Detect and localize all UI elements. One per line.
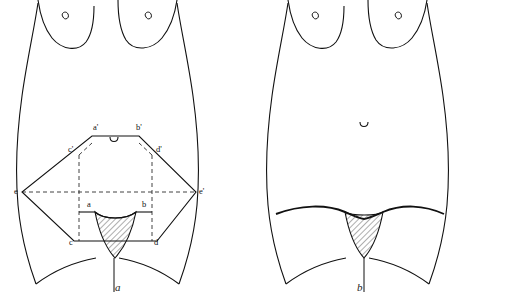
groin-crease-right-a — [119, 258, 179, 284]
torso-flank-right-b — [427, 3, 448, 284]
panel-b-caption: b — [357, 281, 363, 293]
torso-flank-left-b — [267, 3, 288, 284]
label-c-prime: c' — [68, 144, 73, 154]
nipple-left-a — [62, 12, 68, 19]
groin-crease-right-b — [369, 258, 429, 284]
groin-crease-left-a — [36, 258, 96, 284]
figure-page: a' b' c' d' e e' a b c d a b — [0, 0, 517, 301]
label-a: a — [87, 199, 91, 209]
umbilicus-b — [360, 122, 368, 127]
label-d-prime: d' — [156, 144, 162, 154]
hatched-triangle-b — [345, 212, 383, 258]
panel-a-caption: a — [115, 281, 121, 293]
torso-outline-right-b — [368, 0, 427, 48]
hatched-triangle-a — [95, 212, 136, 258]
anatomical-diagram — [0, 0, 517, 301]
groin-crease-left-b — [286, 258, 346, 284]
label-d: d — [154, 237, 158, 247]
label-b-prime: b' — [136, 122, 142, 132]
label-e-left: e — [14, 186, 18, 196]
nipple-right-a — [145, 12, 151, 19]
nipple-left-b — [312, 12, 318, 19]
panel-b — [267, 0, 449, 292]
label-a-prime: a' — [93, 122, 98, 132]
umbilicus-a — [110, 137, 118, 142]
nipple-right-b — [395, 12, 401, 19]
torso-outline-right-a — [118, 0, 177, 48]
label-b: b — [142, 199, 146, 209]
torso-flank-right-a — [177, 3, 198, 284]
label-c: c — [69, 237, 73, 247]
torso-flank-left-a — [17, 3, 38, 284]
label-e-prime: e' — [199, 186, 204, 196]
torso-outline-left-a — [38, 0, 94, 48]
dashed-upper-edge-right-a — [139, 143, 152, 155]
panel-a — [17, 0, 199, 292]
torso-outline-left-b — [288, 0, 344, 48]
